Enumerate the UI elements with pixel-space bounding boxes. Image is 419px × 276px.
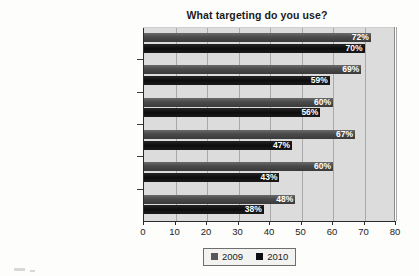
bar-2009: 67% bbox=[144, 130, 355, 139]
bar-value-label: 67% bbox=[336, 130, 355, 139]
bar-2009: 60% bbox=[144, 98, 333, 107]
bar-group: 67%47% bbox=[144, 124, 395, 156]
plot-top-border bbox=[143, 27, 395, 28]
category-tick-2 bbox=[137, 92, 143, 93]
bar-2009: 69% bbox=[144, 65, 361, 74]
bar-value-label: 60% bbox=[314, 98, 333, 107]
x-tick-label-60: 60 bbox=[319, 226, 345, 237]
bar-2009: 72% bbox=[144, 33, 371, 42]
bar-value-label: 69% bbox=[342, 65, 361, 74]
x-tick-40 bbox=[269, 221, 270, 225]
legend-label-2010: 2010 bbox=[267, 251, 288, 262]
x-tick-0 bbox=[143, 221, 144, 225]
bar-group: 60%56% bbox=[144, 92, 395, 124]
bar-group: 72%70% bbox=[144, 27, 395, 59]
bar-2009: 60% bbox=[144, 162, 333, 171]
bar-2010: 70% bbox=[144, 44, 365, 53]
x-tick-label-70: 70 bbox=[351, 226, 377, 237]
bar-group: 69%59% bbox=[144, 59, 395, 91]
bar-chart: What targeting do you use? 72%70%69%59%6… bbox=[0, 0, 419, 276]
legend-item-2009: 2009 bbox=[211, 251, 243, 262]
bar-value-label: 60% bbox=[314, 162, 333, 171]
category-tick-3 bbox=[137, 124, 143, 125]
bar-value-label: 38% bbox=[245, 205, 264, 214]
category-tick-1 bbox=[137, 59, 143, 60]
bar-2010: 59% bbox=[144, 76, 330, 85]
x-tick-20 bbox=[206, 221, 207, 225]
legend-label-2009: 2009 bbox=[222, 251, 243, 262]
black-square-icon bbox=[256, 253, 263, 260]
bar-2010: 43% bbox=[144, 173, 279, 182]
bar-group: 48%38% bbox=[144, 189, 395, 221]
category-tick-5 bbox=[137, 189, 143, 190]
x-tick-label-0: 0 bbox=[130, 226, 156, 237]
x-tick-70 bbox=[364, 221, 365, 225]
x-tick-label-30: 30 bbox=[225, 226, 251, 237]
scan-artifact bbox=[30, 270, 35, 272]
gridline-80 bbox=[396, 27, 397, 221]
bar-value-label: 70% bbox=[345, 44, 364, 53]
bar-value-label: 59% bbox=[311, 76, 330, 85]
legend-item-2010: 2010 bbox=[256, 251, 288, 262]
category-tick-4 bbox=[137, 156, 143, 157]
bar-2010: 38% bbox=[144, 205, 264, 214]
bar-value-label: 56% bbox=[301, 108, 320, 117]
bar-2010: 47% bbox=[144, 141, 292, 150]
bar-value-label: 43% bbox=[260, 173, 279, 182]
bar-value-label: 48% bbox=[276, 195, 295, 204]
x-tick-label-10: 10 bbox=[162, 226, 188, 237]
bar-2009: 48% bbox=[144, 195, 295, 204]
x-tick-30 bbox=[238, 221, 239, 225]
x-tick-label-50: 50 bbox=[288, 226, 314, 237]
x-tick-label-20: 20 bbox=[193, 226, 219, 237]
scan-artifact bbox=[14, 268, 25, 271]
x-tick-label-40: 40 bbox=[256, 226, 282, 237]
chart-title: What targeting do you use? bbox=[0, 9, 419, 21]
bar-value-label: 47% bbox=[273, 141, 292, 150]
bar-2010: 56% bbox=[144, 108, 320, 117]
plot-area: 72%70%69%59%60%56%67%47%60%43%48%38% bbox=[143, 27, 395, 221]
legend: 2009 2010 bbox=[203, 248, 296, 266]
x-tick-80 bbox=[395, 221, 396, 225]
bar-group: 60%43% bbox=[144, 156, 395, 188]
x-tick-60 bbox=[332, 221, 333, 225]
x-tick-label-80: 80 bbox=[382, 226, 408, 237]
plot-right-border bbox=[394, 27, 395, 221]
x-tick-10 bbox=[175, 221, 176, 225]
bar-value-label: 72% bbox=[352, 33, 371, 42]
x-tick-50 bbox=[301, 221, 302, 225]
gray-square-icon bbox=[211, 253, 218, 260]
